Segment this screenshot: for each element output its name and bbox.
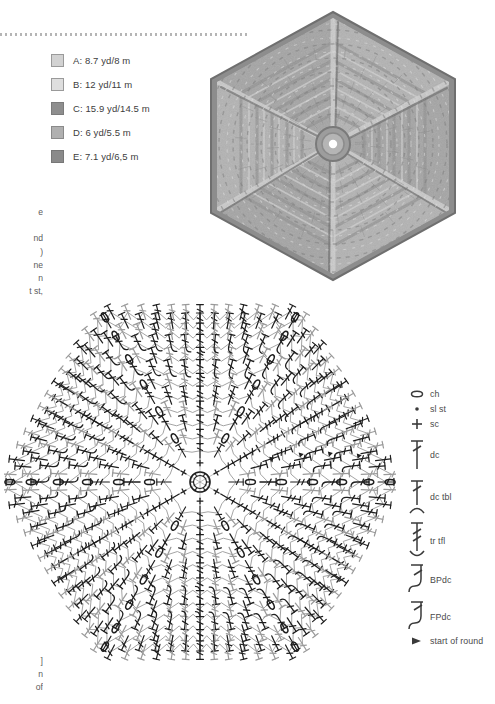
sc-icon	[404, 417, 430, 431]
dc-tbl-icon	[404, 478, 430, 516]
legend-row-dc-tbl: dc tbl	[404, 478, 495, 516]
legend-label-dc: dc	[430, 450, 440, 460]
legend-label-fpdc: FPdc	[430, 612, 451, 622]
start-of-round-icon	[404, 635, 430, 647]
legend-row-start-of-round: start of round	[404, 635, 495, 647]
fpdc-icon	[404, 599, 430, 635]
ch-icon	[404, 388, 430, 400]
edge-fragment-4: ne	[0, 259, 43, 272]
legend-label-sl-st: sl st	[430, 404, 446, 414]
legend-label-ch: ch	[430, 389, 440, 399]
bpdc-icon	[404, 562, 430, 598]
legend-label-start-of-round: start of round	[430, 636, 483, 646]
edge-fragment-5: n	[0, 272, 43, 285]
yarn-label-d: D: 6 yd/5.5 m	[73, 127, 131, 138]
photo-center	[316, 127, 350, 161]
crochet-stitch-chart	[4, 286, 396, 678]
edge-fragment-2: nd	[0, 232, 43, 245]
legend-row-ch: ch	[404, 388, 495, 400]
crochet-hexagon-motif-photo	[191, 2, 476, 290]
legend-label-dc-tbl: dc tbl	[430, 492, 452, 502]
legend-label-tr-tfl: tr tfl	[430, 536, 445, 546]
legend-row-bpdc: BPdc	[404, 562, 495, 598]
legend-row-fpdc: FPdc	[404, 599, 495, 635]
legend-row-tr-tfl: tr tfl	[404, 520, 495, 562]
yarn-label-e: E: 7.1 yd/6,5 m	[73, 151, 138, 162]
edge-fragment-3: )	[0, 246, 43, 259]
yarn-swatch-e	[51, 150, 64, 163]
legend-label-bpdc: BPdc	[430, 575, 451, 585]
yarn-swatch-a	[51, 54, 64, 67]
legend-row-dc: dc	[404, 438, 495, 472]
yarn-label-b: B: 12 yd/11 m	[73, 79, 132, 90]
yarn-swatch-b	[51, 78, 64, 91]
body-text-fragment-top: e nd ) ne n t st,	[0, 206, 43, 298]
legend-row-sc: sc	[404, 417, 495, 431]
sl-st-icon	[404, 403, 430, 415]
edge-fragment-0: e	[0, 206, 43, 219]
yarn-label-a: A: 8.7 yd/8 m	[73, 55, 130, 66]
legend-row-sl-st: sl st	[404, 403, 495, 415]
tr-tfl-icon	[404, 520, 430, 562]
edge-fragment-1	[0, 219, 43, 232]
edge-fragment-b2: of	[0, 681, 43, 694]
dc-icon	[404, 438, 430, 472]
legend-label-sc: sc	[430, 419, 439, 429]
yarn-swatch-c	[51, 102, 64, 115]
yarn-label-c: C: 15.9 yd/14.5 m	[73, 103, 150, 114]
yarn-swatch-d	[51, 126, 64, 139]
